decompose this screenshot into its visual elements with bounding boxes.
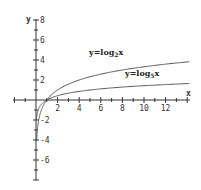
y-tick-label: 6 (40, 36, 45, 45)
y-tick-label: -6 (40, 156, 50, 165)
x-tick-label: 6 (98, 104, 103, 113)
y-axis-label: y (26, 15, 31, 24)
x-tick-label: 10 (139, 104, 149, 113)
x-tick-label: 4 (77, 104, 82, 113)
series-label-log5: y=log5x (124, 68, 160, 79)
y-tick-label: 8 (40, 16, 45, 25)
x-tick-label: 2 (55, 104, 60, 113)
y-tick-label: -4 (40, 136, 50, 145)
series-label-log2: y=log2x (88, 47, 124, 58)
y-tick-label: 2 (40, 76, 45, 85)
log-chart: 24681012 8642-2-4-6 x y y=log2x y=log5x (0, 0, 201, 190)
curves (36, 62, 189, 141)
x-tick-label: 12 (161, 104, 171, 113)
curve-ylog2x (37, 62, 190, 141)
x-axis-label: x (186, 89, 191, 98)
y-tick-label: -2 (40, 116, 50, 125)
x-tick-label: 8 (120, 104, 125, 113)
y-tick-label: 4 (40, 56, 45, 65)
